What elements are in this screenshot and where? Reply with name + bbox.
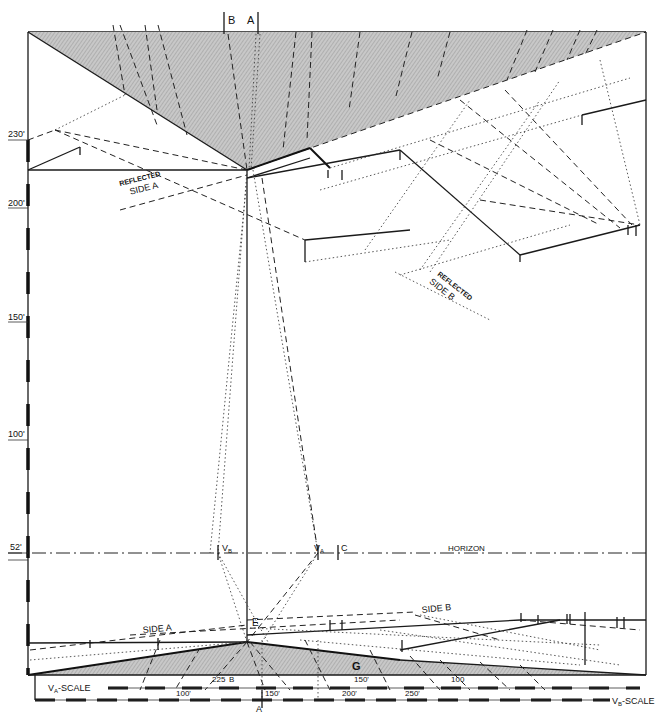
reflected-side-b-label: REFLECTED SIDE B — [427, 269, 473, 311]
vb-scale: VB-SCALE 150' 200' 250' A — [35, 689, 655, 714]
svg-text:100: 100 — [451, 675, 465, 684]
horizon-label: HORIZON — [448, 544, 485, 553]
marker-a-label: A — [247, 14, 255, 26]
lower-building — [28, 612, 646, 675]
scale-label-52: 52' — [10, 542, 22, 552]
scale-label-100: 100' — [8, 429, 25, 439]
svg-text:200': 200' — [342, 689, 357, 698]
top-markers: B A — [224, 12, 258, 34]
va-scale-label: VA-SCALE — [48, 683, 91, 694]
perspective-drawing: B A — [0, 0, 659, 718]
scale-label-150: 150' — [8, 312, 25, 322]
side-b-label: SIDE B — [421, 602, 451, 615]
vb-label: VB — [222, 543, 232, 554]
horizon-line: VB VA C HORIZON — [8, 543, 646, 560]
point-g-label: G — [352, 660, 361, 672]
va-label: VA — [314, 543, 324, 554]
svg-text:B: B — [229, 675, 234, 684]
reflected-side-a-label: REFLECTED SIDE A — [119, 170, 164, 199]
svg-text:150': 150' — [354, 675, 369, 684]
vb-scale-label: VB-SCALE — [612, 696, 655, 707]
svg-text:150': 150' — [265, 689, 280, 698]
c-label: C — [341, 543, 348, 553]
vertical-height-scale: 230' 200' 150' 100' 52' — [8, 129, 28, 675]
a-marker-label: A — [256, 704, 262, 714]
marker-b-label: B — [228, 14, 235, 26]
scale-label-230: 230' — [8, 129, 25, 139]
scale-label-200: 200' — [8, 198, 25, 208]
svg-text:100': 100' — [176, 689, 191, 698]
va-scale: VA-SCALE 225 B 100' 150' 100 — [35, 675, 640, 700]
side-a-label: SIDE A — [142, 623, 172, 635]
point-e-label: E — [252, 617, 259, 628]
svg-text:250': 250' — [405, 689, 420, 698]
svg-text:225: 225 — [212, 675, 226, 684]
vanishing-rays — [210, 170, 318, 642]
